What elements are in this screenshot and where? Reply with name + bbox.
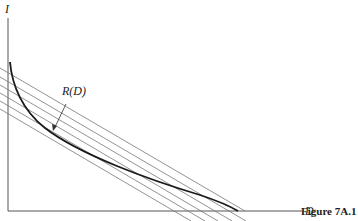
figure-canvas [0, 0, 358, 221]
curve-label: R(D) [62, 85, 86, 97]
figure-caption: Figure 7A.1 [301, 206, 356, 217]
rd-curve [10, 62, 238, 211]
label-arrow [55, 104, 66, 127]
y-axis-label: I [5, 3, 9, 15]
